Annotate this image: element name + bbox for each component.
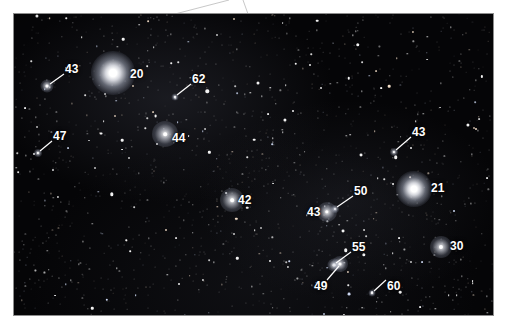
star-label-20: 20 xyxy=(130,68,143,80)
star-label-43-right: 43 xyxy=(412,126,425,138)
star-field-figure: 4320624744434250214330554960 xyxy=(0,0,507,333)
star-label-47: 47 xyxy=(53,130,66,142)
star-label-44: 44 xyxy=(172,132,185,144)
guide-line-left-leader xyxy=(175,0,229,14)
star-label-43-lower: 43 xyxy=(307,206,320,218)
star-label-21: 21 xyxy=(431,182,444,194)
star-label-60: 60 xyxy=(387,280,400,292)
star-label-42: 42 xyxy=(238,194,251,206)
astronomical-plate: 4320624744434250214330554960 xyxy=(14,14,493,315)
star-label-30: 30 xyxy=(450,240,463,252)
star-label-43-upper-left: 43 xyxy=(65,63,78,75)
star-label-62: 62 xyxy=(192,73,205,85)
star-label-49: 49 xyxy=(314,280,327,292)
star-label-50: 50 xyxy=(354,185,367,197)
star-label-55: 55 xyxy=(352,241,365,253)
guide-line-right-leader xyxy=(243,0,248,14)
star-label-layer: 4320624744434250214330554960 xyxy=(14,14,493,315)
